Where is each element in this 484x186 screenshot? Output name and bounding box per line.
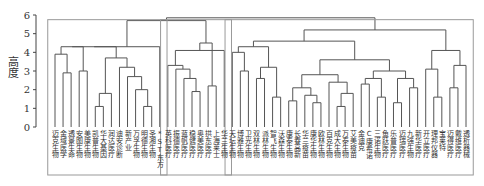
- dendrogram-figure: 高度 0123456迈克生物金域医学透景生命安图生物美康生物凯普生物华大基因润达…: [0, 0, 484, 186]
- y-tick-label: 6: [24, 10, 30, 21]
- y-tick-label: 1: [24, 103, 30, 114]
- y-tick-label: 4: [24, 47, 30, 58]
- y-tick-label: 3: [24, 66, 30, 77]
- y-tick-label: 5: [24, 28, 30, 39]
- y-tick-label: 2: [24, 84, 30, 95]
- leaf-label: 透析器械: [462, 130, 471, 159]
- dendrogram-plot: 0123456迈克生物金域医学透景生命安图生物美康生物凯普生物华大基因润达医疗迪…: [0, 0, 484, 186]
- y-tick-label: 0: [24, 122, 30, 133]
